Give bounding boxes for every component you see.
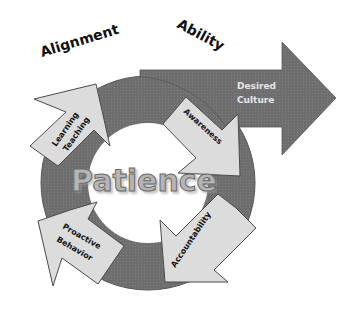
center-label-group: Patience Patience	[71, 163, 219, 200]
patience-culture-cycle-diagram: Alignment Ability Desired Culture Learni…	[0, 0, 358, 318]
desired-culture-line1: Desired	[237, 81, 276, 91]
desired-culture-line2: Culture	[237, 95, 274, 105]
alignment-label: Alignment	[38, 21, 121, 60]
center-label: Patience	[71, 163, 217, 198]
ability-label: Ability	[175, 16, 228, 54]
